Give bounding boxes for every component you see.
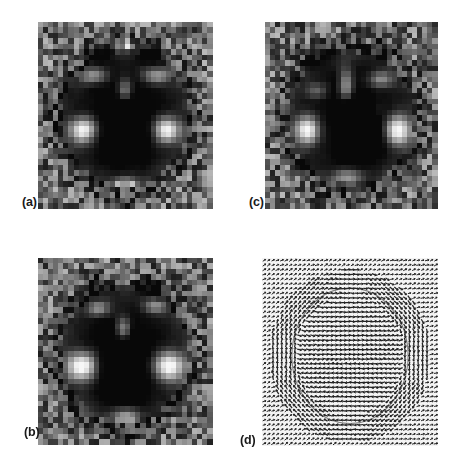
panel-c-label: (c) [249,196,264,209]
panel-b-image [38,258,213,445]
panel-d-vector-field [262,258,438,446]
panel-a [38,22,213,209]
panel-b-label: (b) [24,426,39,439]
panel-d [262,258,438,446]
panel-c [265,22,438,209]
panel-c-image [265,22,438,209]
panel-d-label: (d) [240,434,255,447]
panel-a-image [38,22,213,209]
panel-b [38,258,213,445]
panel-a-label: (a) [22,196,37,209]
figure-root: (a) (c) (b) (d) [0,0,462,466]
